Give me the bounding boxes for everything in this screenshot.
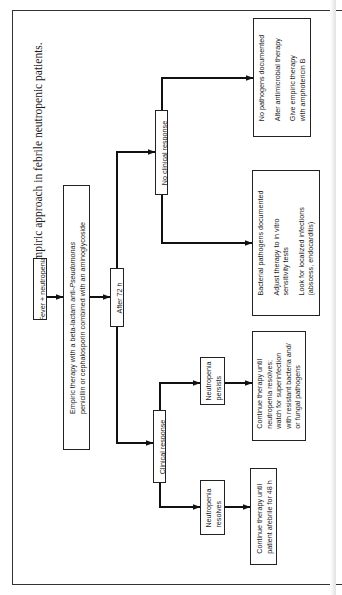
node-empiric-line1: Empiric therapy with a beta-lactam anti-… bbox=[67, 221, 77, 413]
node-resolves-action: Continue therapy until patient afebrile … bbox=[250, 468, 277, 565]
persists-action-line: or fungal pathogens bbox=[293, 343, 303, 429]
persists-action-line: neutropenia resolves; bbox=[265, 343, 275, 429]
resolves-action-line: patient afebrile for 48 h bbox=[264, 480, 274, 554]
bacterial-line: (abscess, endocarditis) bbox=[306, 190, 316, 295]
node-bacterial-pathogens: Bacterial pathogens documented Adjust th… bbox=[252, 170, 320, 316]
bacterial-line: sensitivity tests bbox=[281, 190, 291, 295]
bacterial-line: Bacterial pathogens documented bbox=[256, 190, 266, 295]
resolves-action-line: Continue therapy until bbox=[254, 480, 264, 554]
resolves-line: resolves bbox=[213, 488, 223, 527]
node-after-72h-label: After 72 h bbox=[115, 282, 124, 313]
node-no-clinical-response: No clinical response bbox=[155, 110, 168, 195]
arrow-to-bacterial bbox=[162, 195, 252, 243]
persists-line: Neutropenia bbox=[203, 361, 213, 400]
arrow-to-resolves bbox=[160, 483, 200, 507]
persists-action-line: with resistant bacteria and/ bbox=[284, 343, 294, 429]
arrow-to-clinical bbox=[117, 327, 153, 443]
persists-line: persists bbox=[213, 361, 223, 400]
node-fever-neutropenia-label: Fever + neutropenia bbox=[38, 258, 47, 320]
node-clinical-response: Clinical response bbox=[153, 410, 166, 483]
node-empiric-line2: penicillin or cephalosporin combined wit… bbox=[77, 221, 87, 413]
node-no-clinical-response-label: No clinical response bbox=[160, 120, 169, 184]
resolves-line: Neutropenia bbox=[203, 488, 213, 527]
arrow-to-no-clinical bbox=[117, 152, 155, 268]
no-pathogens-line: with amphotericin B bbox=[298, 34, 308, 120]
node-neutropenia-resolves: Neutropenia resolves bbox=[200, 480, 225, 535]
no-pathogens-line: No pathogens documented bbox=[257, 34, 267, 120]
node-after-72h: After 72 h bbox=[110, 268, 124, 327]
node-no-pathogens: No pathogens documented Alter antimicrob… bbox=[253, 18, 311, 137]
node-persists-action: Continue therapy until neutropenia resol… bbox=[252, 331, 306, 441]
no-pathogens-line: Alter antimicrobial therapy bbox=[273, 34, 283, 120]
node-empiric-therapy: Empiric therapy with a beta-lactam anti-… bbox=[63, 185, 90, 450]
persists-action-line: watch for superinfection bbox=[274, 343, 284, 429]
node-neutropenia-persists: Neutropenia persists bbox=[200, 357, 225, 405]
node-fever-neutropenia: Fever + neutropenia bbox=[33, 258, 47, 320]
persists-action-line: Continue therapy until bbox=[255, 343, 265, 429]
bacterial-line: Adjust therapy to in vitro bbox=[272, 190, 282, 295]
arrow-to-persists bbox=[160, 383, 200, 410]
node-clinical-response-label: Clinical response bbox=[158, 419, 167, 474]
arrow-to-no-pathogens bbox=[162, 78, 253, 110]
no-pathogens-line: Give empiric therapy bbox=[288, 34, 298, 120]
bacterial-line: Look for localized infections bbox=[297, 190, 307, 295]
